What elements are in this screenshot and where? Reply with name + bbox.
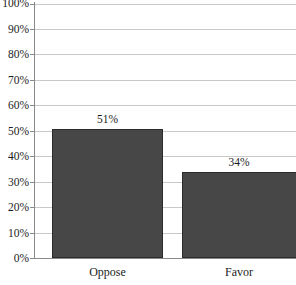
- category-label-favor: Favor: [182, 265, 296, 279]
- gridline-100: [34, 4, 296, 5]
- tick-mark-100: [30, 4, 34, 5]
- tick-mark-60: [30, 105, 34, 106]
- y-tick-label-0: 0%: [0, 252, 29, 264]
- plot-area: [34, 4, 296, 258]
- y-tick-label-20: 20%: [0, 201, 29, 213]
- y-tick-label-60: 60%: [0, 99, 29, 111]
- y-tick-label-10: 10%: [0, 227, 29, 239]
- gridline-60: [34, 105, 296, 106]
- y-tick-label-80: 80%: [0, 48, 29, 60]
- y-tick-label-50: 50%: [0, 125, 29, 137]
- tick-mark-70: [30, 80, 34, 81]
- gridline-0-baseline: [34, 258, 296, 259]
- y-tick-label-30: 30%: [0, 176, 29, 188]
- y-axis-line: [34, 2, 35, 259]
- gridline-70: [34, 80, 296, 81]
- tick-mark-90: [30, 29, 34, 30]
- tick-mark-30: [30, 182, 34, 183]
- tick-mark-50: [30, 131, 34, 132]
- y-tick-label-90: 90%: [0, 23, 29, 35]
- y-tick-label-100: 100%: [0, 0, 29, 9]
- bar-value-label-favor: 34%: [182, 156, 296, 169]
- tick-mark-20: [30, 207, 34, 208]
- tick-mark-80: [30, 54, 34, 55]
- bar-favor: [182, 172, 296, 258]
- category-label-oppose: Oppose: [52, 265, 163, 279]
- bar-value-label-oppose: 51%: [52, 113, 163, 126]
- y-tick-label-40: 40%: [0, 150, 29, 162]
- tick-mark-10: [30, 233, 34, 234]
- gridline-80: [34, 54, 296, 55]
- tick-mark-40: [30, 156, 34, 157]
- bar-chart: 100% 90% 80% 70% 60% 50% 40% 30% 20% 10%…: [0, 0, 296, 285]
- tick-mark-0: [30, 258, 34, 259]
- y-tick-label-70: 70%: [0, 74, 29, 86]
- gridline-90: [34, 29, 296, 30]
- bar-oppose: [52, 129, 163, 259]
